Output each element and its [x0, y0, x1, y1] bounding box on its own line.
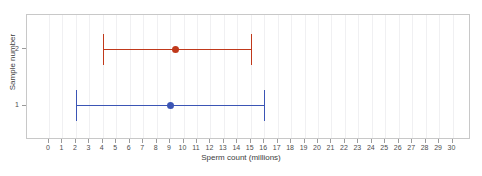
error-bar-cap-low	[76, 90, 77, 121]
chart-container: 0123456789101112131415161718192021222324…	[0, 0, 482, 176]
gridline	[89, 15, 90, 138]
x-axis-title: Sperm count (millions)	[0, 153, 482, 163]
error-bar-cap-low	[103, 34, 104, 65]
gridline	[291, 15, 292, 138]
data-point-marker	[172, 46, 179, 53]
gridline	[170, 15, 171, 138]
gridline	[345, 15, 346, 138]
gridline	[62, 15, 63, 138]
y-tick-mark	[22, 105, 26, 106]
gridline	[210, 15, 211, 138]
gridline	[157, 15, 158, 138]
y-axis-title: Sample number	[8, 12, 18, 112]
gridline	[49, 15, 50, 138]
y-tick-mark	[22, 48, 26, 49]
x-tick-label: 30	[442, 143, 462, 152]
gridline	[372, 15, 373, 138]
gridline	[143, 15, 144, 138]
gridline	[439, 15, 440, 138]
gridline	[224, 15, 225, 138]
gridline	[385, 15, 386, 138]
gridline	[278, 15, 279, 138]
gridline	[237, 15, 238, 138]
gridline	[184, 15, 185, 138]
gridline	[412, 15, 413, 138]
gridline	[358, 15, 359, 138]
error-bar-cap-high	[264, 90, 265, 121]
gridline	[130, 15, 131, 138]
plot-area	[26, 14, 470, 139]
gridline	[331, 15, 332, 138]
gridline	[399, 15, 400, 138]
gridline	[453, 15, 454, 138]
gridline	[116, 15, 117, 138]
gridline	[426, 15, 427, 138]
gridline	[305, 15, 306, 138]
data-point-marker	[167, 102, 174, 109]
gridline	[318, 15, 319, 138]
gridline	[197, 15, 198, 138]
error-bar-cap-high	[251, 34, 252, 65]
